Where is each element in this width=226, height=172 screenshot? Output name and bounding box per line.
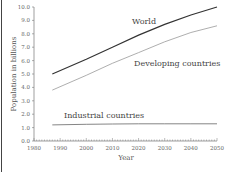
y-tick-label: 7.0	[21, 44, 30, 50]
y-tick-label: 5.0	[21, 71, 30, 77]
y-tick-label: 3.0	[21, 98, 30, 104]
x-tick-label: 2040	[184, 145, 198, 151]
label-developing: Developing countries	[134, 59, 220, 68]
x-tick-label: 2030	[158, 145, 172, 151]
label-world: World	[132, 17, 156, 26]
y-tick-label: 1.0	[21, 125, 30, 131]
x-tick-label: 2000	[79, 145, 93, 151]
tick-labels: 0.01.02.03.04.05.06.07.08.09.010.0198019…	[18, 4, 225, 151]
x-tick-label: 1990	[53, 145, 67, 151]
y-tick-label: 4.0	[21, 84, 30, 90]
y-tick-label: 8.0	[21, 31, 30, 37]
developing-line	[52, 26, 217, 90]
y-axis-title: Population in billions	[10, 36, 18, 111]
y-tick-label: 6.0	[21, 58, 30, 64]
axes	[32, 7, 217, 141]
industrial-line	[52, 124, 217, 125]
x-tick-label: 2050	[210, 145, 224, 151]
x-tick-label: 2010	[105, 145, 119, 151]
x-tick-label: 1980	[27, 145, 41, 151]
label-industrial: Industrial countries	[64, 111, 144, 120]
y-tick-label: 0.0	[21, 138, 30, 144]
population-line-chart: 0.01.02.03.04.05.06.07.08.09.010.0198019…	[0, 0, 226, 172]
y-tick-label: 9.0	[21, 17, 30, 23]
y-tick-label: 2.0	[21, 111, 30, 117]
y-tick-label: 10.0	[18, 4, 31, 10]
x-tick-label: 2020	[132, 145, 146, 151]
x-axis-title: Year	[117, 154, 134, 162]
